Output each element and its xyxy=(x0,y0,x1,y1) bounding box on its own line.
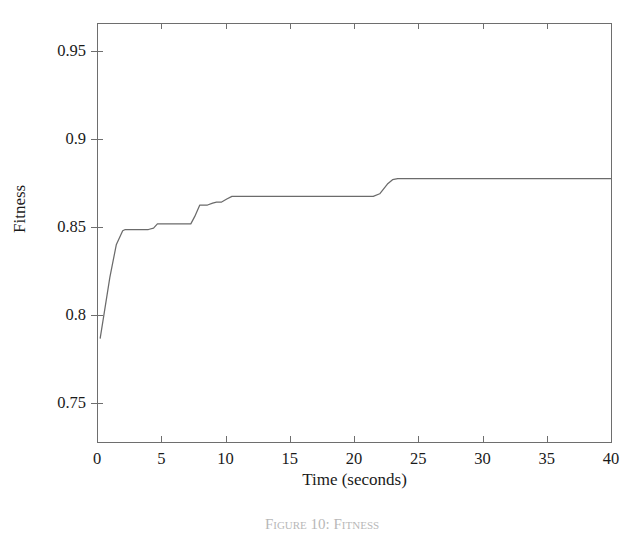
data-series-canvas xyxy=(97,23,612,443)
x-tick-label: 10 xyxy=(217,451,234,468)
y-tick-label: 0.9 xyxy=(65,131,86,148)
x-axis-title: Time (seconds) xyxy=(97,470,612,490)
x-tick-label: 40 xyxy=(603,451,620,468)
y-tick-label: 0.95 xyxy=(57,43,86,60)
x-tick-label: 0 xyxy=(93,451,101,468)
plot-area: 0.750.80.850.90.95 0510152025303540 xyxy=(97,23,612,443)
x-tick-label: 15 xyxy=(282,451,299,468)
x-tick-label: 25 xyxy=(410,451,427,468)
y-tick-label: 0.75 xyxy=(57,395,86,412)
y-axis-title: Fitness xyxy=(10,185,30,233)
y-tick-label: 0.8 xyxy=(65,307,86,324)
figure-caption: Figure 10: Fitness xyxy=(0,516,644,533)
x-tick-label: 20 xyxy=(346,451,363,468)
y-tick-label: 0.85 xyxy=(57,219,86,236)
fitness-line xyxy=(100,179,611,339)
x-tick-label: 5 xyxy=(157,451,165,468)
x-tick-label: 35 xyxy=(539,451,556,468)
x-tick-label: 30 xyxy=(474,451,491,468)
figure-container: Fitness 0.750.80.850.90.95 0510152025303… xyxy=(0,0,644,538)
